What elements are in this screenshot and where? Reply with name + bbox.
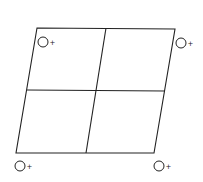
circle-icon	[176, 38, 186, 48]
circle-icon	[38, 37, 48, 47]
parallelogram-diagram: ++++	[0, 0, 203, 182]
plus-sign: +	[166, 163, 172, 171]
marker-bottom-left: +	[15, 161, 33, 171]
plus-sign: +	[27, 163, 33, 171]
horizontal-divider	[27, 90, 165, 91]
circle-icon	[15, 161, 25, 171]
charge-markers: ++++	[15, 37, 194, 171]
marker-top-right: +	[176, 38, 194, 48]
plus-sign: +	[188, 40, 194, 48]
circle-icon	[154, 161, 164, 171]
plus-sign: +	[50, 39, 56, 47]
marker-bottom-right: +	[154, 161, 172, 171]
marker-top-left: +	[38, 37, 56, 47]
